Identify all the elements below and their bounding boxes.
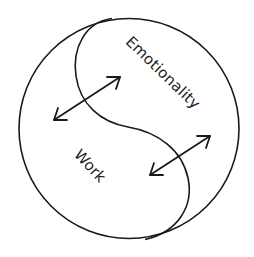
yin-yang-diagram: Emotionality Work xyxy=(0,0,254,257)
arrow-shaft xyxy=(54,77,120,120)
lower-right-bidirectional-arrow xyxy=(150,136,210,175)
upper-left-bidirectional-arrow xyxy=(54,77,120,120)
arrow-shaft xyxy=(150,136,210,175)
